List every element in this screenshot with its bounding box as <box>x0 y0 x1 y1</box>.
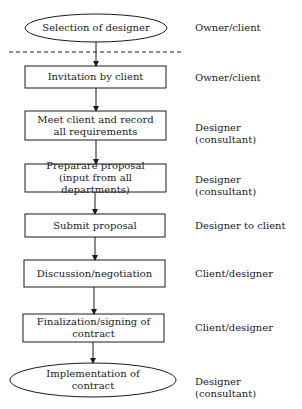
role-label-1: Owner/client <box>195 22 261 34</box>
step-label-implementation: Implementation of contract <box>40 364 146 396</box>
step-label-submit-proposal: Submit proposal <box>25 214 165 237</box>
flowchart-canvas <box>0 0 302 409</box>
step-label-meet-client: Meet client and record all requirements <box>30 111 161 140</box>
step-label-discussion: Discussion/negotiation <box>24 260 165 287</box>
step-label-prepare-proposal: Preparare proposal (input from all depar… <box>32 164 159 192</box>
role-label-2: Owner/client <box>195 72 261 84</box>
role-label-6: Client/designer <box>195 268 273 280</box>
step-label-selection: Selection of designer <box>25 14 167 42</box>
role-label-5: Designer to client <box>195 220 286 232</box>
role-label-7: Client/designer <box>195 322 273 334</box>
role-label-3: Designer (consultant) <box>195 122 302 146</box>
step-label-finalization: Finalization/signing of contract <box>35 314 152 342</box>
role-label-8: Designer (consultant) <box>195 376 275 400</box>
role-label-4: Designer (consultant) <box>195 174 302 198</box>
step-label-invitation: Invitation by client <box>25 66 166 88</box>
